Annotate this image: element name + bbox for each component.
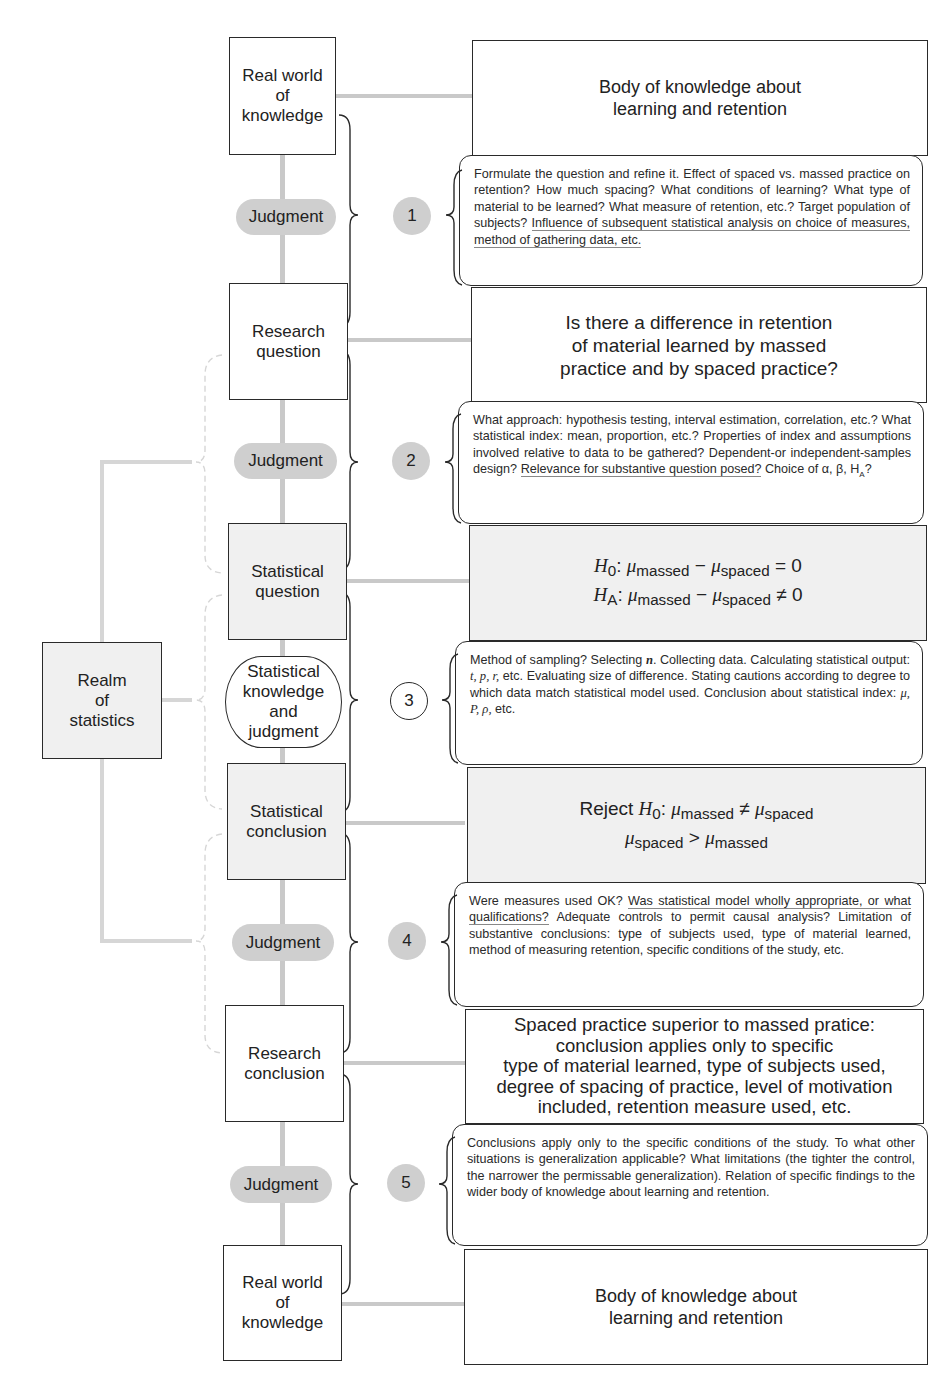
note-braces <box>0 0 936 1397</box>
